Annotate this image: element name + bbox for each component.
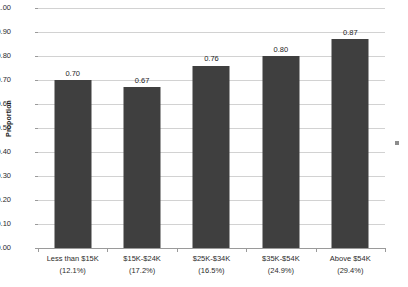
y-axis-tick-label: 0.30 <box>0 172 11 180</box>
bar <box>193 66 230 248</box>
stray-mark-icon <box>395 141 399 145</box>
x-axis-category-label: Above $54K(29.4%) <box>316 253 385 276</box>
x-axis-tick-mark <box>177 248 178 252</box>
x-axis-tick-mark <box>38 248 39 252</box>
y-axis-tick-label: 0.70 <box>0 76 11 84</box>
y-axis-tick-label: 0.60 <box>0 100 11 108</box>
category-name: $25K-$34K <box>193 254 231 263</box>
y-axis-title: Proportion <box>5 89 12 149</box>
bar-group: 0.87 <box>316 8 385 248</box>
x-axis-tick-mark <box>107 248 108 252</box>
x-axis-category-label: $15K-$24K(17.2%) <box>107 253 176 276</box>
y-axis-tick-label: 0.40 <box>0 148 11 156</box>
bar-value-label: 0.67 <box>135 77 150 85</box>
x-axis-tick-mark <box>316 248 317 252</box>
category-name: $35K-$54K <box>262 254 300 263</box>
category-name: $15K-$24K <box>123 254 161 263</box>
bar <box>262 56 299 248</box>
y-axis-tick-label: 0.00 <box>0 244 11 252</box>
bar <box>124 87 161 248</box>
x-axis-tick-mark <box>246 248 247 252</box>
y-axis-tick-label: 0.10 <box>0 220 11 228</box>
bar <box>54 80 91 248</box>
category-percentage: (16.5%) <box>177 265 246 277</box>
bar-chart: Proportion 1.000.900.800.700.600.500.400… <box>0 0 408 287</box>
category-name: Less than $15K <box>47 254 99 263</box>
plot-area: 1.000.900.800.700.600.500.400.300.200.10… <box>38 8 385 248</box>
category-name: Above $54K <box>330 254 371 263</box>
bar-group: 0.67 <box>107 8 176 248</box>
x-axis-category-label: $35K-$54K(24.9%) <box>246 253 315 276</box>
category-percentage: (12.1%) <box>38 265 107 277</box>
x-axis-tick-mark <box>385 248 386 252</box>
y-axis-tick-label: 0.20 <box>0 196 11 204</box>
category-percentage: (24.9%) <box>246 265 315 277</box>
x-axis-category-labels: Less than $15K(12.1%)$15K-$24K(17.2%)$25… <box>38 253 385 283</box>
bar <box>332 39 369 248</box>
bar-value-label: 0.80 <box>274 46 289 54</box>
bar-value-label: 0.76 <box>204 55 219 63</box>
category-percentage: (17.2%) <box>107 265 176 277</box>
x-axis-category-label: $25K-$34K(16.5%) <box>177 253 246 276</box>
bar-group: 0.70 <box>38 8 107 248</box>
bar-group: 0.80 <box>246 8 315 248</box>
category-percentage: (29.4%) <box>316 265 385 277</box>
x-axis-category-label: Less than $15K(12.1%) <box>38 253 107 276</box>
y-axis-tick-label: 0.50 <box>0 124 11 132</box>
gridline <box>38 248 385 249</box>
bar-group: 0.76 <box>177 8 246 248</box>
bar-value-label: 0.87 <box>343 29 358 37</box>
y-axis-tick-label: 0.80 <box>0 52 11 60</box>
y-axis-tick-label: 1.00 <box>0 4 11 12</box>
bar-value-label: 0.70 <box>65 70 80 78</box>
y-axis-tick-label: 0.90 <box>0 28 11 36</box>
